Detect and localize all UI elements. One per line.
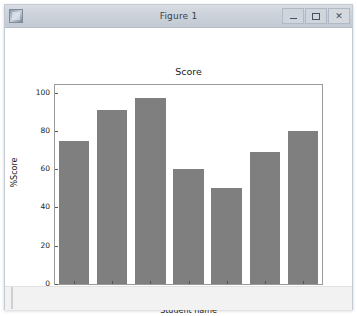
y-tick-mark bbox=[55, 93, 58, 94]
y-tick-mark bbox=[55, 284, 58, 285]
bar bbox=[135, 98, 166, 284]
x-tick-mark bbox=[265, 281, 266, 284]
y-tick-label: 100 bbox=[24, 87, 50, 96]
bar bbox=[211, 188, 242, 284]
bar bbox=[59, 141, 90, 285]
bar bbox=[288, 131, 319, 284]
maximize-icon bbox=[312, 13, 320, 20]
window-titlebar[interactable]: Figure 1 ✕ bbox=[5, 5, 352, 28]
bar bbox=[250, 152, 281, 284]
y-axis-label: %Score bbox=[10, 145, 19, 201]
x-tick-mark bbox=[227, 281, 228, 284]
y-tick-mark bbox=[55, 169, 58, 170]
y-tick-label: 60 bbox=[24, 164, 50, 173]
bar bbox=[97, 110, 128, 284]
x-tick-mark bbox=[303, 281, 304, 284]
minimize-icon bbox=[290, 18, 297, 19]
y-tick-label: 20 bbox=[24, 240, 50, 249]
y-tick-label: 80 bbox=[24, 125, 50, 134]
y-tick-mark bbox=[55, 131, 58, 132]
toolbar-grip[interactable] bbox=[11, 287, 13, 309]
close-icon: ✕ bbox=[335, 12, 343, 21]
bars-layer bbox=[55, 85, 322, 284]
y-tick-mark bbox=[55, 207, 58, 208]
y-tick-label: 40 bbox=[24, 202, 50, 211]
x-tick-mark bbox=[189, 281, 190, 284]
desktop-backdrop: Figure 1 ✕ Score %Score Student name 020… bbox=[0, 0, 357, 316]
minimize-button[interactable] bbox=[282, 8, 304, 24]
x-tick-mark bbox=[74, 281, 75, 284]
plot-area bbox=[54, 84, 323, 285]
figure-toolbar[interactable] bbox=[5, 286, 352, 310]
close-button[interactable]: ✕ bbox=[328, 8, 350, 24]
figure-canvas[interactable]: Score %Score Student name 020406080100 J… bbox=[5, 28, 352, 286]
chart-title: Score bbox=[54, 66, 323, 77]
y-tick-mark bbox=[55, 246, 58, 247]
x-tick-mark bbox=[150, 281, 151, 284]
maximize-button[interactable] bbox=[305, 8, 327, 24]
figure-window: Figure 1 ✕ Score %Score Student name 020… bbox=[4, 4, 353, 310]
x-tick-mark bbox=[112, 281, 113, 284]
window-controls: ✕ bbox=[281, 5, 352, 27]
matplotlib-figure-icon bbox=[9, 9, 23, 23]
bar bbox=[173, 169, 204, 284]
